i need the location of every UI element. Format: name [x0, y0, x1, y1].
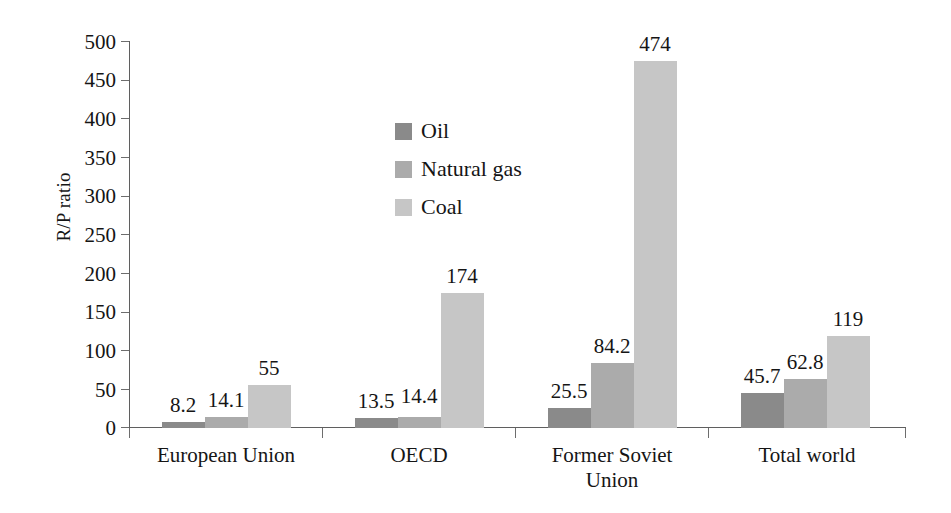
bar-value-former-soviet-union-oil: 25.5 — [529, 381, 609, 402]
bar-group-former-soviet-union: 25.5 84.2 474 — [548, 41, 679, 428]
legend: Oil Natural gas Coal — [395, 117, 625, 231]
plot-area: 8.2 14.1 55 13.5 14.4 174 25.5 84.2 474 — [129, 41, 906, 428]
bar-european-union-oil[interactable] — [162, 422, 205, 428]
x-axis-label-total-world: Total world — [692, 443, 922, 468]
bar-former-soviet-union-oil[interactable] — [548, 408, 591, 428]
x-group-tick-4 — [905, 428, 906, 438]
y-tick-label-50: 50 — [46, 380, 116, 401]
y-tick-label-150: 150 — [46, 302, 116, 323]
x-group-tick-0 — [129, 428, 130, 438]
bar-former-soviet-union-coal[interactable] — [634, 61, 677, 428]
bar-oecd-coal[interactable] — [441, 293, 484, 428]
y-tick-label-450: 450 — [46, 70, 116, 91]
bar-value-total-world-natural-gas: 62.8 — [765, 352, 845, 373]
bar-group-total-world: 45.7 62.8 119 — [741, 41, 872, 428]
bar-value-european-union-coal: 55 — [229, 358, 309, 379]
x-axis-label-total-world-line1: Total world — [692, 443, 922, 468]
y-tick-label-0: 0 — [46, 418, 116, 439]
legend-item-oil[interactable]: Oil — [395, 117, 625, 155]
legend-label-natural-gas: Natural gas — [421, 155, 522, 183]
bar-value-oecd-coal: 174 — [422, 266, 502, 287]
x-group-tick-1 — [322, 428, 323, 438]
bar-group-european-union: 8.2 14.1 55 — [162, 41, 293, 428]
x-group-tick-2 — [515, 428, 516, 438]
y-tick-label-200: 200 — [46, 264, 116, 285]
x-group-tick-3 — [708, 428, 709, 438]
bar-total-world-oil[interactable] — [741, 393, 784, 428]
y-tick-label-350: 350 — [46, 148, 116, 169]
y-tick-label-250: 250 — [46, 225, 116, 246]
bar-oecd-natural-gas[interactable] — [398, 417, 441, 428]
x-axis-label-former-soviet-union-line2: Union — [497, 468, 727, 493]
legend-swatch-coal-icon — [395, 199, 412, 216]
bar-value-former-soviet-union-coal: 474 — [615, 34, 695, 55]
bar-value-total-world-coal: 119 — [808, 309, 888, 330]
bar-value-former-soviet-union-natural-gas: 84.2 — [572, 336, 652, 357]
y-axis-tick-group: 500 450 400 350 300 250 200 150 100 50 0 — [0, 0, 130, 513]
legend-label-coal: Coal — [421, 193, 463, 221]
bar-group-oecd: 13.5 14.4 174 — [355, 41, 486, 428]
y-tick-label-100: 100 — [46, 341, 116, 362]
bar-value-oecd-natural-gas: 14.4 — [379, 386, 459, 407]
legend-label-oil: Oil — [421, 117, 449, 145]
bar-total-world-coal[interactable] — [827, 336, 870, 428]
bar-value-european-union-natural-gas: 14.1 — [186, 390, 266, 411]
bar-european-union-natural-gas[interactable] — [205, 417, 248, 428]
legend-swatch-oil-icon — [395, 123, 412, 140]
legend-swatch-natural-gas-icon — [395, 161, 412, 178]
y-tick-label-400: 400 — [46, 109, 116, 130]
bar-oecd-oil[interactable] — [355, 418, 398, 428]
y-tick-label-300: 300 — [46, 186, 116, 207]
bar-chart: R/P ratio 500 450 400 350 300 250 200 15… — [0, 0, 951, 513]
y-tick-label-500: 500 — [46, 32, 116, 53]
legend-item-coal[interactable]: Coal — [395, 193, 625, 231]
legend-item-natural-gas[interactable]: Natural gas — [395, 155, 625, 193]
